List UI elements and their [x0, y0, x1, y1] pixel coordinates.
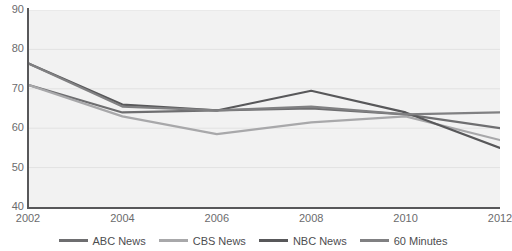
x-axis-tick-label: 2006 — [205, 212, 229, 224]
x-axis-tick-labels: 200220042006200820102012 — [28, 212, 500, 228]
y-axis-tick-label: 80 — [0, 43, 24, 54]
y-axis-tick-label: 90 — [0, 4, 24, 15]
legend-item[interactable]: NBC News — [259, 235, 347, 247]
legend-item-label: NBC News — [293, 235, 347, 247]
legend-item[interactable]: CBS News — [159, 235, 246, 247]
legend-color-swatch — [360, 239, 389, 242]
series-lines — [28, 63, 500, 148]
y-axis-tick-label: 70 — [0, 83, 24, 94]
plot-svg — [28, 10, 500, 207]
legend-item[interactable]: 60 Minutes — [360, 235, 448, 247]
x-axis-tick-label: 2010 — [393, 212, 417, 224]
gridlines — [28, 10, 500, 168]
legend-color-swatch — [259, 239, 288, 242]
legend-item[interactable]: ABC News — [59, 235, 146, 247]
legend-item-label: 60 Minutes — [394, 235, 448, 247]
chart-legend: ABC NewsCBS NewsNBC News60 Minutes — [0, 232, 506, 249]
legend-item-label: CBS News — [193, 235, 246, 247]
x-axis-tick-label: 2008 — [299, 212, 323, 224]
x-axis-tick-label: 2002 — [16, 212, 40, 224]
y-axis-line — [27, 8, 29, 209]
y-axis-tick-label: 50 — [0, 162, 24, 173]
x-axis-tick-label: 2012 — [488, 212, 512, 224]
y-axis-tick-label: 40 — [0, 201, 24, 212]
plot-area — [28, 10, 500, 207]
y-axis-tick-label: 60 — [0, 122, 24, 133]
legend-color-swatch — [159, 239, 188, 242]
x-axis-line — [27, 207, 500, 209]
legend-item-label: ABC News — [93, 235, 146, 247]
x-axis-tick-label: 2004 — [110, 212, 134, 224]
legend-color-swatch — [59, 239, 88, 242]
